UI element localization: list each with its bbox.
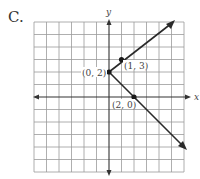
ray-up-arrow-icon <box>166 20 175 29</box>
coordinate-graph: x y (1, 3) (0, 2) (2, 0) <box>0 0 200 179</box>
point-label-0-2: (0, 2) <box>82 68 106 78</box>
point-label-1-3: (1, 3) <box>124 61 148 71</box>
x-axis-right-arrow-icon <box>185 95 191 100</box>
point-0-2 <box>106 69 111 74</box>
y-axis-down-arrow-icon <box>107 170 112 176</box>
x-axis-label: x <box>194 92 199 102</box>
point-label-2-0: (2, 0) <box>112 100 136 110</box>
y-axis-label: y <box>105 7 112 17</box>
